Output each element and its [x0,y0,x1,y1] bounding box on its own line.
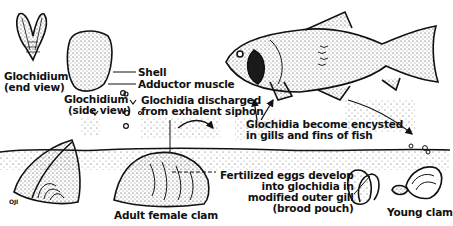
label-adductor-muscle: Adductor muscle [138,79,235,90]
label-line: (brood pouch) [220,203,354,214]
label-glochidium-side-view: Glochidium (side view) [64,94,131,116]
glochidium-end-view-drawing [17,14,47,60]
label-line: in gills and fins of fish [246,130,403,141]
label-glochidium-end-view: Glochidium (end view) [4,71,68,93]
label-glochidia-discharged: Glochidia discharged from exhalent sipho… [141,95,263,117]
label-line: from exhalent siphon [141,106,263,117]
label-adult-female-clam: Adult female clam [114,210,218,221]
glochidium-side-view-drawing [67,31,136,91]
label-fertilized-eggs: Fertilized eggs develop into glochidia i… [220,170,354,214]
fish-drawing [226,12,438,100]
artist-signature: OJI [9,196,18,207]
label-line: (side view) [64,105,131,116]
label-line: (end view) [4,82,68,93]
label-young-clam: Young clam [387,207,453,218]
label-shell: Shell [138,67,166,78]
label-glochidia-encysted: Glochidia become encysted in gills and f… [246,119,403,141]
young-clam-closed-drawing [392,167,442,199]
